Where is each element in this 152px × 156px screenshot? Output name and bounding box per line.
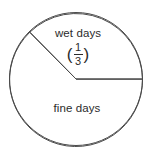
fraction-open-paren: ( xyxy=(67,46,73,63)
pie-slice-label-wet-days: wet days xyxy=(44,27,112,40)
fraction-close-paren: ) xyxy=(84,46,90,63)
pie-chart-figure: wet days ( 1 3 ) fine days xyxy=(0,0,152,156)
pie-slice-fraction-wet-days: ( 1 3 ) xyxy=(52,42,104,67)
fraction-denominator: 3 xyxy=(75,56,81,67)
pie-slice-label-fine-days: fine days xyxy=(38,102,116,115)
fraction-one-third: 1 3 xyxy=(74,42,83,67)
fraction-numerator: 1 xyxy=(75,42,81,53)
pie-chart-svg xyxy=(0,0,152,156)
